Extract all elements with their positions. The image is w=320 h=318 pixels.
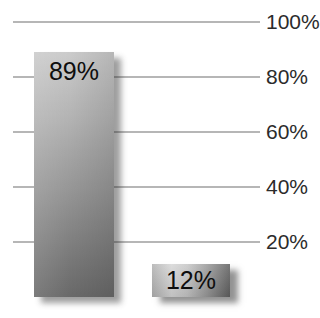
y-tick-label-60: 60%: [266, 121, 308, 143]
bar-data-label-0: 89%: [49, 52, 99, 86]
gridline-100: [13, 21, 260, 23]
y-tick-label-40: 40%: [266, 176, 308, 198]
y-tick-label-80: 80%: [266, 66, 308, 88]
y-tick-label-100: 100%: [266, 11, 320, 33]
bar-series-1: 12%: [152, 264, 230, 297]
bar-series-0: 89%: [34, 52, 114, 297]
bar-data-label-1: 12%: [166, 266, 216, 295]
bar-chart: 100% 80% 60% 40% 20% 89% 12%: [0, 0, 320, 318]
y-tick-label-20: 20%: [266, 231, 308, 253]
